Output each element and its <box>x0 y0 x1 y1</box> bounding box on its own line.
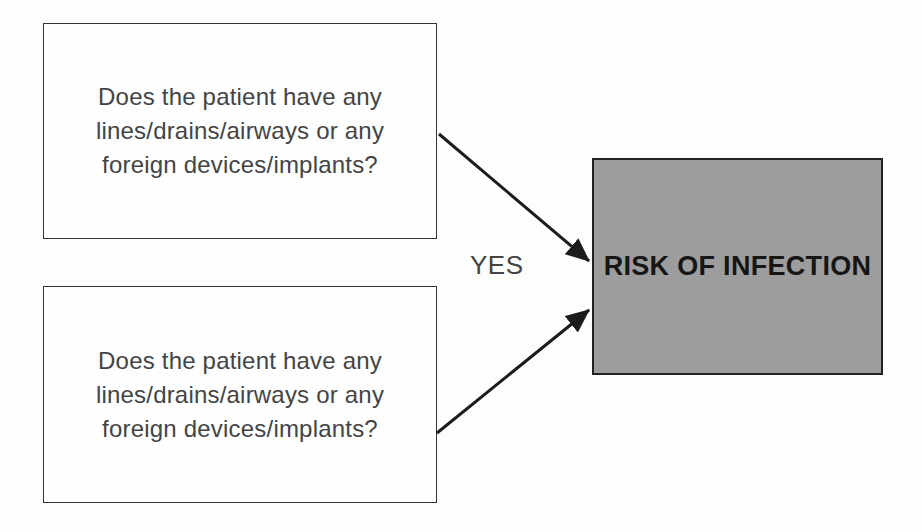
question-top-line-2: lines/drains/airways or any <box>96 114 384 148</box>
question-box-top: Does the patient have any lines/drains/a… <box>43 23 437 239</box>
question-top-line-3: foreign devices/implants? <box>102 148 378 182</box>
risk-of-infection-label: RISK OF INFECTION <box>604 251 872 282</box>
risk-of-infection-box: RISK OF INFECTION <box>592 158 883 375</box>
arrow-bottom-to-risk <box>437 310 589 433</box>
question-bottom-line-1: Does the patient have any <box>98 344 382 378</box>
question-bottom-line-2: lines/drains/airways or any <box>96 378 384 412</box>
question-bottom-line-3: foreign devices/implants? <box>102 412 378 446</box>
question-box-bottom: Does the patient have any lines/drains/a… <box>43 286 437 503</box>
yes-edge-label: YES <box>470 250 522 281</box>
flowchart-canvas: Does the patient have any lines/drains/a… <box>0 0 922 532</box>
question-top-line-1: Does the patient have any <box>98 80 382 114</box>
arrow-top-to-risk <box>439 134 589 261</box>
